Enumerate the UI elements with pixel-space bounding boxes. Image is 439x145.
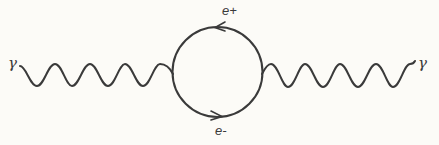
electron-label: e- — [215, 124, 227, 137]
electron-positron-loop — [173, 27, 263, 117]
photon-label-left: γ — [8, 56, 17, 71]
photon-line-left — [20, 64, 173, 86]
feynman-diagram: γ γ e+ e- — [0, 0, 439, 145]
photon-line-right — [262, 61, 415, 87]
photon-label-right: γ — [418, 56, 427, 71]
positron-label: e+ — [222, 4, 237, 17]
arrow-right-icon — [211, 111, 222, 120]
